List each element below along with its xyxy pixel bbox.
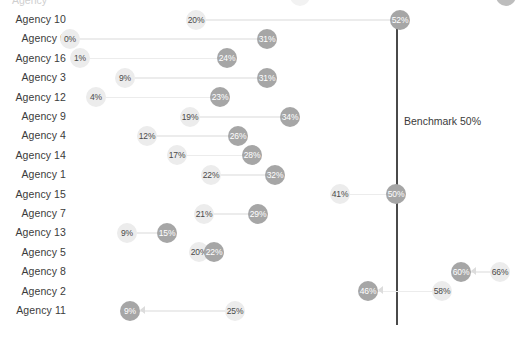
dumbbell-chart: Agency Benchmark 50% Agency 1020%52%Agen… [0, 0, 520, 339]
connector-line [378, 291, 432, 293]
chart-row: Agency 258%46% [0, 282, 520, 301]
end-value-label: 32% [267, 170, 284, 180]
row-label: Agency 4 [0, 126, 66, 145]
direction-arrow-left-icon [140, 306, 145, 314]
end-value-dot: 50% [386, 184, 406, 204]
connector-line [140, 310, 225, 312]
chart-row: Agency 520%22% [0, 243, 520, 262]
chart-row: Agency 1125%9% [0, 301, 520, 320]
chart-row: Agency 1417%28% [0, 146, 520, 165]
clipped-start-dot [290, 0, 310, 6]
start-value-dot: 21% [194, 204, 214, 224]
clipped-row-label: Agency [12, 0, 47, 6]
start-value-label: 66% [492, 267, 509, 277]
row-label: Agency 10 [0, 10, 66, 29]
start-value-dot: 12% [137, 126, 157, 146]
start-value-label: 19% [182, 112, 199, 122]
end-value-dot: 32% [265, 165, 285, 185]
chart-row: Agency 161%24% [0, 49, 520, 68]
end-value-label: 9% [124, 306, 136, 316]
start-value-label: 21% [196, 209, 213, 219]
end-value-label: 22% [206, 247, 223, 257]
end-value-dot: 29% [248, 204, 268, 224]
start-value-label: 1% [74, 53, 86, 63]
start-value-label: 9% [121, 228, 133, 238]
chart-row: Agency 124%23% [0, 88, 520, 107]
connector-line [80, 38, 257, 40]
start-value-label: 4% [90, 92, 102, 102]
row-label: Agency 1 [0, 165, 66, 184]
row-label: Agency 9 [0, 107, 66, 126]
start-value-label: 20% [188, 15, 205, 25]
chart-row: Agency 412%26% [0, 126, 520, 145]
start-value-dot: 25% [225, 301, 245, 321]
end-value-label: 31% [259, 34, 276, 44]
end-value-dot: 15% [157, 223, 177, 243]
connector-line [135, 77, 257, 79]
end-value-dot: 22% [204, 242, 224, 262]
end-value-dot: 31% [257, 68, 277, 88]
connector-line [214, 213, 248, 215]
end-value-label: 26% [230, 131, 247, 141]
row-label: Agency 16 [0, 49, 66, 68]
end-value-label: 60% [453, 267, 470, 277]
end-value-dot: 31% [257, 29, 277, 49]
end-value-dot: 24% [217, 48, 237, 68]
end-value-dot: 28% [242, 145, 262, 165]
end-value-dot: 9% [120, 301, 140, 321]
start-value-dot: 41% [330, 184, 350, 204]
row-label: Agency 3 [0, 68, 66, 87]
chart-row: Agency 1020%52% [0, 10, 520, 29]
row-label: Agency 15 [0, 185, 66, 204]
chart-row: Agency 39%31% [0, 68, 520, 87]
start-value-dot: 4% [86, 87, 106, 107]
end-value-dot: 60% [451, 262, 471, 282]
connector-line [157, 135, 228, 137]
start-value-label: 41% [332, 189, 349, 199]
end-value-label: 50% [388, 189, 405, 199]
chart-row: Agency 919%34% [0, 107, 520, 126]
start-value-dot: 1% [70, 48, 90, 68]
end-value-label: 29% [250, 209, 267, 219]
start-value-label: 25% [227, 306, 244, 316]
start-value-dot: 66% [490, 262, 510, 282]
start-value-label: 9% [119, 73, 131, 83]
row-label: Agency 6 [0, 29, 66, 48]
chart-row: Agency 139%15% [0, 223, 520, 242]
start-value-dot: 9% [117, 223, 137, 243]
chart-row: Agency 1541%50% [0, 185, 520, 204]
connector-line [106, 97, 210, 99]
start-value-label: 17% [169, 150, 186, 160]
end-value-label: 34% [282, 112, 299, 122]
end-value-label: 31% [259, 73, 276, 83]
start-value-dot: 17% [167, 145, 187, 165]
row-label: Agency 8 [0, 262, 66, 281]
row-label: Agency 7 [0, 204, 66, 223]
end-value-dot: 46% [358, 281, 378, 301]
start-value-label: 22% [203, 170, 220, 180]
end-value-label: 28% [244, 150, 261, 160]
start-value-dot: 22% [201, 165, 221, 185]
end-value-label: 46% [360, 286, 377, 296]
chart-row: Agency 721%29% [0, 204, 520, 223]
connector-line [221, 174, 265, 176]
row-label: Agency 2 [0, 282, 66, 301]
start-value-dot: 58% [432, 281, 452, 301]
row-label: Agency 13 [0, 223, 66, 242]
connector-line [90, 58, 217, 60]
row-label: Agency 14 [0, 146, 66, 165]
direction-arrow-left-icon [471, 267, 476, 275]
connector-line [137, 232, 157, 234]
end-value-dot: 52% [390, 10, 410, 30]
start-value-dot: 9% [115, 68, 135, 88]
start-value-label: 0% [64, 34, 76, 44]
end-value-label: 23% [212, 92, 229, 102]
end-value-dot: 26% [228, 126, 248, 146]
clipped-end-dot [496, 0, 516, 6]
end-value-label: 52% [392, 15, 409, 25]
start-value-dot: 20% [186, 10, 206, 30]
clipped-top-row: Agency [0, 0, 520, 7]
row-label: Agency 5 [0, 243, 66, 262]
connector-line [206, 19, 390, 21]
row-label: Agency 12 [0, 88, 66, 107]
